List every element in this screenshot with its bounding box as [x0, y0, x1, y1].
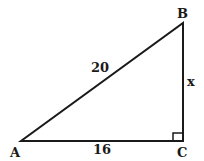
triangle-figure: A C B 20 16 x: [0, 0, 204, 161]
triangle-diagram: A C B 20 16 x: [0, 0, 204, 161]
vertex-label-a: A: [9, 145, 21, 160]
right-angle-marker-icon: [173, 133, 183, 141]
vertex-label-c: C: [177, 145, 187, 160]
vertex-label-b: B: [177, 6, 188, 21]
side-label-leg: x: [187, 74, 195, 89]
side-label-hypotenuse: 20: [91, 60, 109, 75]
side-label-base: 16: [93, 142, 111, 157]
triangle-shape: [21, 23, 183, 141]
